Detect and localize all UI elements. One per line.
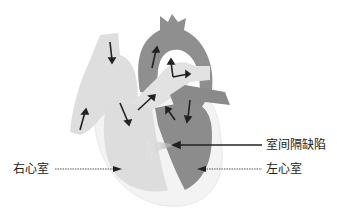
heart-diagram: 室间隔缺陷 右心室 左心室: [0, 0, 337, 217]
label-right-ventricle: 右心室: [13, 162, 49, 176]
label-left-ventricle: 左心室: [266, 162, 302, 176]
heart-illustration: [0, 0, 337, 217]
label-ventricular-septal-defect: 室间隔缺陷: [266, 138, 326, 152]
